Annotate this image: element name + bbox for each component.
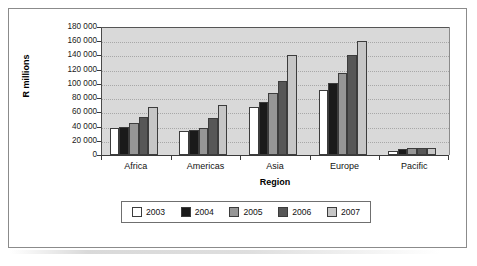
x-tick-mark	[448, 155, 449, 160]
y-tick-label: 60 000	[37, 108, 97, 116]
bars-layer	[101, 27, 449, 155]
x-label-europe: Europe	[310, 161, 380, 171]
y-tick-label: 180 000	[37, 23, 97, 31]
y-tick-label: 80 000	[37, 94, 97, 102]
x-tick-mark	[240, 155, 241, 160]
legend-label: 2006	[292, 207, 311, 217]
bar-pacific-2006	[417, 148, 427, 155]
bar-europe-2005	[338, 73, 348, 155]
legend-swatch-icon	[229, 207, 239, 217]
bar-africa-2005	[129, 123, 139, 155]
bar-pacific-2005	[407, 148, 417, 155]
bar-africa-2007	[148, 107, 158, 155]
legend-label: 2004	[195, 207, 214, 217]
legend-item-2005[interactable]: 2005	[229, 207, 262, 217]
legend-label: 2007	[341, 207, 360, 217]
bar-pacific-2007	[427, 148, 437, 155]
bar-americas-2003	[179, 131, 189, 155]
bar-europe-2004	[328, 83, 338, 155]
bar-group	[110, 27, 158, 155]
bar-africa-2004	[119, 127, 129, 155]
chart-frame: R millions 180 000160 000140 000120 0001…	[8, 8, 467, 248]
y-tick-label: 160 000	[37, 37, 97, 45]
bar-europe-2007	[357, 41, 367, 155]
y-tick-label: 140 000	[37, 51, 97, 59]
bar-americas-2005	[199, 128, 209, 155]
chart-legend: 20032004200520062007	[121, 201, 371, 223]
x-label-americas: Americas	[171, 161, 241, 171]
x-axis-labels: AfricaAmericasAsiaEuropePacific	[101, 161, 449, 175]
x-label-asia: Asia	[240, 161, 310, 171]
x-tick-mark	[379, 155, 380, 160]
legend-swatch-icon	[132, 207, 142, 217]
x-tick-mark	[101, 155, 102, 160]
legend-label: 2005	[243, 207, 262, 217]
y-axis-ticks: 180 000160 000140 000120 000100 00080 00…	[33, 27, 97, 155]
bar-americas-2004	[189, 130, 199, 155]
bar-group	[388, 27, 436, 155]
x-label-africa: Africa	[101, 161, 171, 171]
plot-right-rule	[449, 27, 450, 155]
y-tick-label: 40 000	[37, 123, 97, 131]
legend-item-2007[interactable]: 2007	[327, 207, 360, 217]
bar-africa-2006	[139, 117, 149, 155]
x-tick-mark	[171, 155, 172, 160]
bar-asia-2007	[287, 55, 297, 155]
bar-asia-2004	[259, 102, 269, 155]
bar-group	[179, 27, 227, 155]
bar-europe-2006	[347, 55, 357, 155]
legend-item-2003[interactable]: 2003	[132, 207, 165, 217]
x-tick-mark	[310, 155, 311, 160]
bar-asia-2005	[268, 93, 278, 155]
x-axis-title: Region	[101, 177, 449, 187]
legend-swatch-icon	[327, 207, 337, 217]
legend-label: 2003	[146, 207, 165, 217]
y-tick-label: 100 000	[37, 80, 97, 88]
legend-item-2006[interactable]: 2006	[278, 207, 311, 217]
legend-item-2004[interactable]: 2004	[181, 207, 214, 217]
scan-artifact	[10, 250, 440, 254]
y-tick-label: 120 000	[37, 66, 97, 74]
y-tick-label: 20 000	[37, 137, 97, 145]
y-axis-title: R millions	[21, 36, 31, 116]
legend-swatch-icon	[181, 207, 191, 217]
bar-asia-2003	[249, 107, 259, 155]
legend-swatch-icon	[278, 207, 288, 217]
bar-group	[249, 27, 297, 155]
bar-americas-2006	[208, 118, 218, 155]
bar-americas-2007	[218, 105, 228, 155]
chart-plot-wrapper: R millions 180 000160 000140 000120 0001…	[9, 9, 466, 247]
bar-africa-2003	[110, 128, 120, 155]
y-tick-label: 0	[37, 151, 97, 159]
bar-europe-2003	[319, 90, 329, 155]
bar-asia-2006	[278, 81, 288, 155]
bar-group	[319, 27, 367, 155]
x-label-pacific: Pacific	[379, 161, 449, 171]
